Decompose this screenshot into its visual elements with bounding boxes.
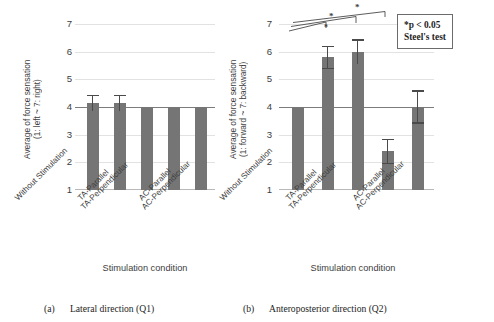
y-tick-b-4: 4 xyxy=(260,102,272,112)
plot-area-a xyxy=(75,24,215,190)
significance-annotations-b: * * * xyxy=(225,0,494,40)
error-bar-b-ta-perpendicular xyxy=(352,39,364,64)
bar-a-ac-perpendicular xyxy=(195,107,207,190)
significance-star-2: * xyxy=(329,12,334,21)
bar-a-ta-perpendicular xyxy=(141,107,153,190)
y-tick-b-6: 6 xyxy=(260,47,272,57)
error-bar-b-ac-perpendicular xyxy=(412,90,424,123)
gridline-a-7 xyxy=(75,24,215,25)
bar-b-ta-perpendicular xyxy=(352,52,364,190)
error-bar-b-ac-parallel xyxy=(382,139,394,164)
error-bar-a-without-stimulation xyxy=(87,95,99,112)
legend-box: *p < 0.05 Steel's test xyxy=(397,14,453,49)
y-axis-title-b-line2: (1: forward ~ 7: backward) xyxy=(239,61,248,156)
y-tick-a-1: 1 xyxy=(60,185,72,195)
y-axis-title-b-line1: Average of force sensation xyxy=(228,59,238,158)
y-tick-a-3: 3 xyxy=(60,130,72,140)
y-tick-b-5: 5 xyxy=(260,75,272,85)
y-tick-b-1: 1 xyxy=(260,185,272,195)
y-tick-b-3: 3 xyxy=(260,130,272,140)
legend-line-1: *p < 0.05 xyxy=(404,19,446,31)
y-tick-a-5: 5 xyxy=(60,75,72,85)
gridline-a-5 xyxy=(75,79,215,80)
caption-a-text: Lateral direction (Q1) xyxy=(70,303,154,314)
significance-bracket-1 xyxy=(289,22,326,31)
y-axis-title-a-line1: Average of force sensation xyxy=(22,59,32,158)
significance-bracket-3 xyxy=(293,12,385,23)
chart-panel-b: Average of force sensation (1: forward ~… xyxy=(225,0,494,288)
error-bar-b-ta-parallel xyxy=(322,46,334,69)
x-axis-title-b: Stimulation condition xyxy=(263,263,443,273)
caption-a: (a)Lateral direction (Q1) xyxy=(44,303,154,314)
y-axis-title-a-line2: (1: left ~ 7: right) xyxy=(33,79,42,139)
figure-container: Average of force sensation (1: left ~ 7:… xyxy=(0,0,494,322)
caption-b: (b)Anteroposterior direction (Q2) xyxy=(243,303,387,314)
y-tick-a-7: 7 xyxy=(60,19,72,29)
caption-b-text: Anteroposterior direction (Q2) xyxy=(269,303,387,314)
legend-line-2: Steel's test xyxy=(404,31,446,43)
significance-star-1: * xyxy=(324,24,329,31)
chart-panel-a: Average of force sensation (1: left ~ 7:… xyxy=(0,0,240,288)
y-tick-a-4: 4 xyxy=(60,102,72,112)
error-bar-a-ta-parallel xyxy=(114,95,126,112)
y-tick-a-6: 6 xyxy=(60,47,72,57)
x-axis-title-a: Stimulation condition xyxy=(60,263,230,273)
significance-star-3: * xyxy=(355,3,360,12)
caption-b-tag: (b) xyxy=(243,303,269,314)
caption-a-tag: (a) xyxy=(44,303,70,314)
gridline-a-6 xyxy=(75,52,215,53)
